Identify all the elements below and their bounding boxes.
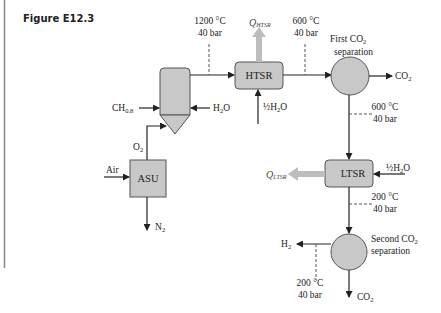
stream-h2o-gasifier: H2O — [191, 103, 230, 114]
svg-text:CO2: CO2 — [357, 292, 373, 303]
svg-text:H2O: H2O — [213, 103, 230, 114]
svg-text:QLTSR: QLTSR — [266, 169, 287, 180]
svg-text:½H2O: ½H2O — [386, 163, 410, 174]
htsr-unit: HTSR — [235, 62, 283, 89]
heat-q-htsr: QHTSR — [249, 17, 271, 62]
stream-air: Air — [104, 165, 129, 177]
svg-text:separation: separation — [334, 47, 373, 57]
stream-h2-product: H2 200 °C 40 bar — [281, 239, 331, 300]
svg-text:600 °C: 600 °C — [293, 16, 320, 26]
svg-text:1200 °C: 1200 °C — [194, 16, 226, 26]
stream-n2: N2 — [147, 197, 165, 233]
stream-ch08: CH0.8 — [112, 103, 159, 114]
htsr-label: HTSR — [246, 70, 273, 81]
stream-ltsr-to-sep2: 200 °C 40 bar — [349, 187, 398, 233]
svg-text:N2: N2 — [155, 222, 165, 233]
svg-text:CH0.8: CH0.8 — [112, 103, 133, 114]
stream-gasifier-to-htsr: 1200 °C 40 bar — [190, 16, 234, 75]
svg-text:QHTSR: QHTSR — [249, 17, 271, 28]
svg-text:40 bar: 40 bar — [198, 28, 223, 38]
asu-unit: ASU — [130, 160, 166, 197]
svg-text:½H2O: ½H2O — [263, 102, 287, 113]
stream-sep1-to-ltsr: 600 °C 40 bar — [349, 95, 398, 159]
heat-q-ltsr: QLTSR — [266, 167, 325, 181]
figure-label: Figure E12.3 — [23, 13, 94, 24]
svg-text:40 bar: 40 bar — [294, 28, 319, 38]
svg-text:40 bar: 40 bar — [373, 204, 398, 214]
svg-text:First CO2: First CO2 — [330, 34, 366, 45]
svg-text:separation: separation — [371, 246, 410, 256]
ltsr-unit: LTSR — [325, 160, 373, 187]
first-co2-separator: First CO2 separation — [330, 34, 373, 95]
svg-text:200 °C: 200 °C — [372, 192, 399, 202]
svg-text:O2: O2 — [133, 142, 143, 153]
svg-text:40 bar: 40 bar — [373, 114, 398, 124]
second-co2-separator: Second CO2 separation — [331, 234, 418, 270]
stream-co2-second: CO2 — [349, 270, 373, 303]
stream-o2: O2 — [133, 126, 166, 160]
svg-text:600 °C: 600 °C — [372, 102, 399, 112]
process-flow-diagram: Figure E12.3 CH0.8 H2O O2 ASU Air N2 120… — [0, 0, 441, 313]
svg-text:200 °C: 200 °C — [297, 278, 324, 288]
asu-label: ASU — [137, 173, 158, 184]
svg-text:Air: Air — [106, 165, 120, 175]
svg-text:CO2: CO2 — [395, 71, 411, 82]
svg-text:Second CO2: Second CO2 — [371, 234, 418, 245]
stream-co2-first: CO2 — [369, 71, 411, 82]
svg-text:40 bar: 40 bar — [298, 290, 323, 300]
svg-text:H2: H2 — [281, 239, 291, 250]
stream-half-h2o-ltsr: ½H2O — [374, 163, 410, 174]
gasifier — [160, 68, 190, 134]
stream-htsr-to-sep1: 600 °C 40 bar — [283, 16, 331, 75]
ltsr-label: LTSR — [341, 168, 366, 179]
stream-half-h2o-htsr: ½H2O — [258, 90, 287, 124]
